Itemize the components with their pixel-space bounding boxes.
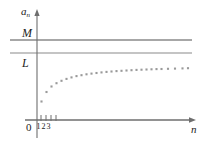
data-point — [160, 68, 162, 70]
data-point — [65, 78, 67, 80]
data-point — [80, 74, 82, 76]
data-point — [100, 71, 102, 73]
data-point — [90, 73, 92, 75]
origin-label: 0 — [26, 122, 32, 133]
data-point — [75, 75, 77, 77]
data-point — [174, 68, 176, 70]
data-point — [130, 69, 132, 71]
data-point — [120, 70, 122, 72]
data-point — [145, 68, 147, 70]
data-point — [115, 70, 117, 72]
x-axis-label: n — [191, 124, 197, 135]
x-axis-arrow-icon — [189, 117, 196, 123]
data-point — [181, 67, 183, 69]
data-point — [125, 69, 127, 71]
data-point — [110, 70, 112, 72]
data-point — [105, 71, 107, 73]
data-point — [187, 67, 189, 69]
data-point — [140, 69, 142, 71]
data-point — [60, 80, 62, 82]
data-point — [150, 68, 152, 70]
sequence-convergence-figure: an M L 0 n 123 — [0, 0, 209, 149]
data-point — [40, 100, 42, 102]
x-axis-tick-label: 3 — [46, 122, 51, 131]
data-point — [50, 85, 52, 87]
data-point — [85, 73, 87, 75]
data-point — [70, 76, 72, 78]
data-point — [167, 68, 169, 70]
data-point — [135, 69, 137, 71]
x-axis-tick-labels: 123 — [36, 122, 51, 131]
data-point — [55, 82, 57, 84]
y-axis-arrow-icon — [34, 9, 39, 16]
data-point — [155, 68, 157, 70]
data-point — [95, 72, 97, 74]
y-axis-label: an — [21, 6, 30, 19]
y-axis-label-subscript: n — [27, 11, 31, 19]
upper-bound-label: M — [22, 27, 32, 39]
limit-label: L — [22, 57, 29, 69]
data-point — [45, 91, 47, 93]
